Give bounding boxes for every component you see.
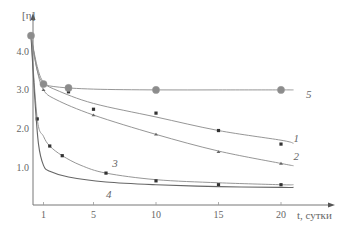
x-tick-label: 5 xyxy=(91,209,96,220)
axes: 151015201.02.03.04.0[η]t, сутки xyxy=(17,9,336,221)
data-point-square xyxy=(61,154,64,157)
data-point-square xyxy=(217,183,220,186)
data-point-square xyxy=(48,144,51,147)
data-point-circle xyxy=(152,86,159,93)
series-2 xyxy=(29,34,294,166)
curve-4 xyxy=(31,36,294,188)
series-3 xyxy=(29,34,293,186)
data-point-square xyxy=(279,183,282,186)
data-point-square xyxy=(154,112,157,115)
y-tick-label: 3.0 xyxy=(17,84,30,95)
data-point-square xyxy=(92,108,95,111)
data-point-square xyxy=(217,129,220,132)
series-group xyxy=(27,32,293,187)
curve-3 xyxy=(31,36,294,185)
series-5 xyxy=(27,32,293,93)
x-tick-label: 1 xyxy=(41,209,46,220)
series-4 xyxy=(31,36,294,188)
curve-label-4: 4 xyxy=(106,188,112,200)
x-axis-arrow-icon xyxy=(328,203,335,208)
x-tick-label: 10 xyxy=(151,209,161,220)
curve-2 xyxy=(31,36,294,166)
data-point-triangle xyxy=(42,88,46,91)
data-point-circle xyxy=(277,86,284,93)
y-tick-label: 1.0 xyxy=(17,162,30,173)
chart: 151015201.02.03.04.0[η]t, сутки 12345 xyxy=(0,0,353,229)
curve-label-3: 3 xyxy=(111,157,118,169)
curve-label-2: 2 xyxy=(294,150,300,162)
curve-label-5: 5 xyxy=(306,88,312,100)
x-axis-title: t, сутки xyxy=(297,209,332,221)
data-point-square xyxy=(279,142,282,145)
data-point-square xyxy=(154,179,157,182)
data-point-circle xyxy=(40,80,47,87)
data-point-circle xyxy=(65,84,72,91)
data-point-circle xyxy=(27,32,34,39)
x-tick-label: 15 xyxy=(214,209,224,220)
curve-label-1: 1 xyxy=(294,132,300,144)
x-tick-label: 20 xyxy=(276,209,286,220)
curve-5 xyxy=(31,36,294,90)
y-tick-label: 2.0 xyxy=(17,123,30,134)
data-point-square xyxy=(104,172,107,175)
y-axis-title: [η] xyxy=(22,9,35,21)
y-tick-label: 4.0 xyxy=(17,46,30,57)
